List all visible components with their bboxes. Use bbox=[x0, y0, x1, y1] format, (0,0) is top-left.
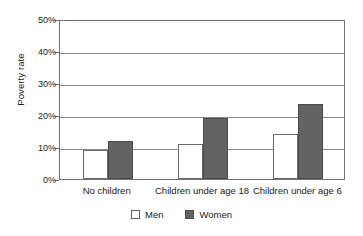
bar-women-2 bbox=[298, 104, 323, 179]
x-axis-label-1: Children under age 18 bbox=[155, 185, 249, 196]
y-tick-label: 40% bbox=[10, 47, 56, 57]
legend-swatch-women-icon bbox=[185, 210, 194, 219]
bar-women-1 bbox=[203, 118, 228, 179]
poverty-rate-bar-chart: Poverty rate 0%10%20%30%40%50% No childr… bbox=[0, 0, 363, 236]
x-axis-label-2: Children under age 6 bbox=[253, 185, 342, 196]
chart-legend: Men Women bbox=[0, 209, 363, 220]
y-tick-label: 30% bbox=[10, 79, 56, 89]
gridline bbox=[60, 85, 344, 86]
gridline bbox=[60, 53, 344, 54]
x-axis-label-0: No children bbox=[83, 185, 131, 196]
legend-item-men: Men bbox=[131, 209, 163, 220]
bar-men-0 bbox=[83, 150, 108, 179]
y-tick-label: 20% bbox=[10, 111, 56, 121]
legend-swatch-men-icon bbox=[131, 210, 140, 219]
bar-women-0 bbox=[108, 141, 133, 179]
y-tick-label: 10% bbox=[10, 143, 56, 153]
bar-men-1 bbox=[178, 144, 203, 179]
plot-area bbox=[59, 20, 345, 180]
legend-label-men: Men bbox=[145, 209, 163, 220]
y-tick-label: 50% bbox=[10, 15, 56, 25]
y-tick-label: 0% bbox=[10, 175, 56, 185]
legend-label-women: Women bbox=[199, 209, 232, 220]
legend-item-women: Women bbox=[185, 209, 232, 220]
bar-men-2 bbox=[273, 134, 298, 179]
